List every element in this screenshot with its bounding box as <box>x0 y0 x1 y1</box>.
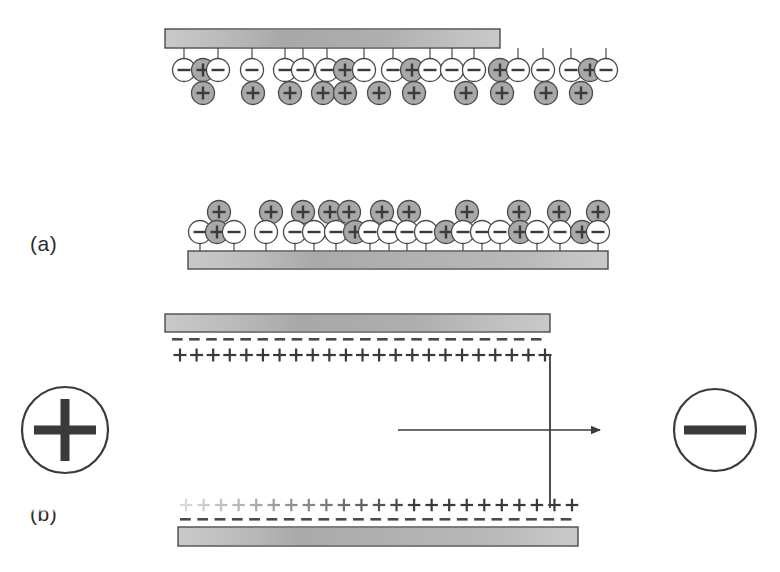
negative-charge-dash <box>284 518 295 521</box>
negative-charge-dash <box>480 338 491 341</box>
negative-charge-dash <box>474 518 485 521</box>
negative-charge-dash <box>370 518 381 521</box>
ion-negative <box>292 59 315 82</box>
negative-charge-dash <box>440 518 451 521</box>
negative-charge-dash <box>411 338 422 341</box>
negative-charge-dash <box>197 518 208 521</box>
ion-negative <box>419 59 442 82</box>
ion-negative <box>353 59 376 82</box>
negative-charge-dash <box>353 518 364 521</box>
negative-charge-dash <box>445 338 456 341</box>
negative-charge-dash <box>232 518 243 521</box>
negative-charge-dash <box>509 518 520 521</box>
ion-negative <box>303 221 326 244</box>
negative-charge-dash <box>249 518 260 521</box>
ion-negative <box>255 221 278 244</box>
plus-vertical-stroke <box>61 399 70 461</box>
negative-charge-dash <box>377 338 388 341</box>
ion-positive <box>192 82 215 105</box>
negative-charge-dash <box>267 518 278 521</box>
negative-charge-dash <box>526 518 537 521</box>
ion-negative <box>441 59 464 82</box>
negative-charge-dash <box>491 518 502 521</box>
panel-label-b-text: (b) <box>30 502 57 525</box>
plate-top-a <box>165 29 500 48</box>
negative-charge-dash <box>457 518 468 521</box>
ion-positive <box>570 82 593 105</box>
negative-charge-dash <box>240 338 251 341</box>
negative-charge-dash <box>405 518 416 521</box>
ion-positive <box>535 82 558 105</box>
plate-top-b <box>165 314 550 332</box>
positive-row-top-b <box>174 349 552 362</box>
negative-charge-dash <box>388 518 399 521</box>
negative-charge-dash <box>428 338 439 341</box>
panel-label-a-text: (a) <box>30 232 57 255</box>
negative-charge-dash <box>189 338 200 341</box>
negative-charge-dash <box>223 338 234 341</box>
negative-charge-dash <box>172 338 183 341</box>
canvas-background <box>0 0 780 572</box>
ion-negative <box>223 221 246 244</box>
ion-negative <box>549 221 572 244</box>
plate-bottom-a <box>188 251 608 269</box>
ion-negative <box>595 59 618 82</box>
ion-negative <box>207 59 230 82</box>
ion-positive <box>242 82 265 105</box>
scan-fade-overlay <box>150 492 420 518</box>
ion-positive <box>456 201 479 224</box>
negative-charge-dash <box>543 518 554 521</box>
negative-charge-dash <box>561 518 572 521</box>
negative-charge-dash <box>301 518 312 521</box>
negative-dash-layer-bottom-b <box>180 518 571 521</box>
negative-charge-dash <box>180 518 191 521</box>
ion-negative <box>463 59 486 82</box>
ion-positive <box>455 82 478 105</box>
ion-positive <box>334 82 357 105</box>
negative-charge-dash <box>463 338 474 341</box>
negative-charge-dash <box>206 338 217 341</box>
panel-label-a: (a) <box>30 232 57 256</box>
negative-charge-dash <box>336 518 347 521</box>
ion-negative <box>526 221 549 244</box>
negative-charge-dash <box>343 338 354 341</box>
negative-charge-dash <box>531 338 542 341</box>
ion-negative <box>532 59 555 82</box>
negative-charge-dash <box>292 338 303 341</box>
ion-positive <box>260 201 283 224</box>
charged-plates-diagram <box>0 0 780 572</box>
negative-charge-dash <box>309 338 320 341</box>
ion-positive <box>279 82 302 105</box>
ion-positive <box>491 82 514 105</box>
negative-charge-dash <box>275 338 286 341</box>
negative-charge-dash <box>394 338 405 341</box>
negative-charge-dash <box>422 518 433 521</box>
ion-positive <box>368 82 391 105</box>
negative-charge-dash <box>318 518 329 521</box>
negative-charge-dash <box>360 338 371 341</box>
panel-label-b: (b) <box>30 502 57 531</box>
negative-charge-dash <box>215 518 226 521</box>
negative-charge-dash <box>326 338 337 341</box>
ion-negative <box>507 59 530 82</box>
ion-negative <box>587 221 610 244</box>
positive-terminal <box>22 387 108 473</box>
negative-charge-dash <box>257 338 268 341</box>
ion-negative <box>241 59 264 82</box>
ion-positive <box>312 82 335 105</box>
plate-bottom-b <box>178 527 578 546</box>
ion-positive <box>403 82 426 105</box>
minus-stroke <box>684 426 746 435</box>
negative-charge-dash <box>497 338 508 341</box>
negative-charge-dash <box>514 338 525 341</box>
